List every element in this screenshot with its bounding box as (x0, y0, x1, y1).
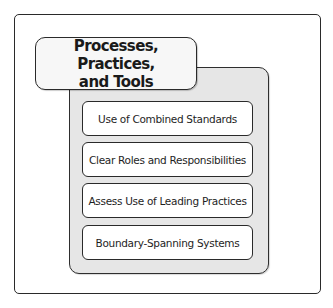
title-box: Processes, Practices, and Tools (35, 37, 197, 90)
item-leading-practices: Assess Use of Leading Practices (82, 183, 253, 218)
item-combined-standards: Use of Combined Standards (82, 101, 253, 136)
diagram-title: Processes, Practices, and Tools (36, 37, 196, 91)
title-line-2: and Tools (79, 73, 153, 91)
item-clear-roles: Clear Roles and Responsibilities (82, 142, 253, 177)
title-line-1: Processes, Practices, (74, 37, 158, 73)
item-boundary-spanning: Boundary-Spanning Systems (82, 225, 253, 260)
